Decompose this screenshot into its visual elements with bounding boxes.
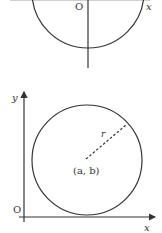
top-x-label: x	[146, 1, 152, 12]
bottom-circle	[32, 105, 142, 215]
y-axis-label: y	[11, 92, 18, 103]
top-figure: O x	[10, 0, 152, 68]
radius-label: r	[101, 129, 106, 139]
radius-line	[86, 125, 126, 159]
top-origin-label: O	[75, 1, 83, 12]
bottom-figure: y x O r (a, b)	[11, 92, 155, 233]
origin-label: O	[13, 204, 21, 215]
diagram-canvas: O x y x O r (a, b)	[0, 0, 162, 233]
x-axis-label: x	[144, 222, 150, 233]
center-label: (a, b)	[73, 165, 100, 176]
